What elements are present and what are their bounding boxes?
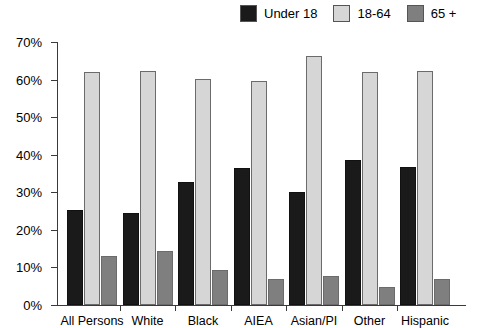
chart-legend: Under 1818-6465 + — [240, 2, 472, 24]
x-axis-category-label: Hispanic — [401, 314, 449, 328]
legend-swatch-icon — [333, 5, 350, 22]
y-axis-tick — [51, 80, 58, 81]
bar — [400, 167, 416, 305]
plot-area: 0%10%20%30%40%50%60%70% All PersonsWhite… — [57, 42, 466, 305]
x-axis-tick — [286, 305, 287, 311]
bar — [212, 270, 228, 305]
legend-entry: 18-64 — [333, 5, 390, 22]
x-axis-category-label: Other — [354, 314, 385, 328]
bar — [362, 72, 378, 305]
y-axis-tick-label: 0% — [23, 299, 42, 312]
bar — [379, 287, 395, 305]
y-axis-tick — [51, 267, 58, 268]
bar — [434, 279, 450, 305]
y-axis-tick-label: 40% — [16, 148, 42, 161]
bar — [234, 168, 250, 305]
y-axis-tick-label: 60% — [16, 73, 42, 86]
legend-entry: Under 18 — [240, 5, 317, 22]
x-axis-tick — [231, 305, 232, 311]
bar — [123, 213, 139, 305]
x-axis-category-label: White — [132, 314, 164, 328]
bar — [67, 210, 83, 305]
y-axis-tick-label: 10% — [16, 261, 42, 274]
bar — [323, 276, 339, 305]
bar — [140, 71, 156, 305]
legend-swatch-icon — [407, 5, 424, 22]
legend-label: 18-64 — [357, 7, 390, 20]
bar — [268, 279, 284, 305]
bar — [195, 79, 211, 305]
bar — [157, 251, 173, 305]
bar — [178, 182, 194, 305]
y-axis-tick — [51, 305, 58, 306]
bar — [289, 192, 305, 305]
x-axis-tick — [397, 305, 398, 311]
bar — [101, 256, 117, 305]
x-axis-category-label: All Persons — [60, 314, 123, 328]
y-axis-tick-label: 70% — [16, 36, 42, 49]
y-axis-tick-label: 30% — [16, 186, 42, 199]
x-axis-tick — [120, 305, 121, 311]
bar — [84, 72, 100, 305]
legend-entry: 65 + — [407, 5, 457, 22]
legend-label: Under 18 — [264, 7, 317, 20]
bar — [251, 81, 267, 305]
bar — [345, 160, 361, 305]
x-axis-category-label: Black — [188, 314, 219, 328]
legend-swatch-icon — [240, 5, 257, 22]
legend-label: 65 + — [431, 7, 457, 20]
y-axis-tick — [51, 230, 58, 231]
x-axis-line — [57, 305, 466, 306]
bar — [306, 56, 322, 305]
y-axis-tick — [51, 155, 58, 156]
y-axis-tick-label: 50% — [16, 111, 42, 124]
x-axis-tick — [342, 305, 343, 311]
x-axis-category-label: Asian/PI — [291, 314, 338, 328]
y-axis-tick — [51, 117, 58, 118]
x-axis-tick — [175, 305, 176, 311]
y-axis-tick-label: 20% — [16, 223, 42, 236]
x-axis-category-label: AIEA — [244, 314, 273, 328]
bar — [417, 71, 433, 305]
y-axis-tick — [51, 192, 58, 193]
y-axis-line — [57, 42, 58, 306]
y-axis-tick — [51, 42, 58, 43]
